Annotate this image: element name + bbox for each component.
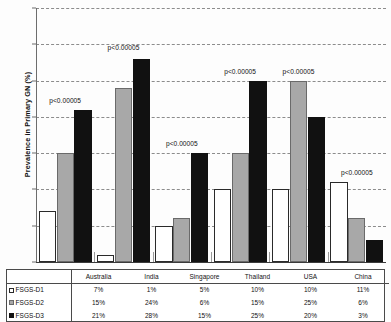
table-cell: 6%: [178, 296, 231, 309]
bar-fsgs-d2-india: [115, 88, 132, 262]
legend-label: FSGS-D3: [16, 312, 45, 319]
pvalue-annotation-australia: p<0.00005: [49, 97, 81, 104]
bar-fsgs-d3-singapore: [191, 153, 208, 262]
gridline: [36, 81, 386, 82]
legend-swatch-icon: [9, 300, 14, 305]
table-header-usa: USA: [284, 270, 337, 283]
table-cell: 20%: [284, 309, 337, 322]
plot-area-wrapper: Prevalence in Primary GN (%) 00.050.10.1…: [0, 0, 391, 272]
category-separator: [269, 252, 270, 262]
pvalue-annotation-china: p<0.00005: [341, 169, 373, 176]
plot-area: p<0.00005p<0.00005p<0.00005p<0.00005p<0.…: [36, 8, 386, 262]
bar-fsgs-d2-thailand: [232, 153, 249, 262]
table-cell: 25%: [231, 309, 284, 322]
table-cell: 5%: [178, 283, 231, 296]
table-row: FSGS-D17%1%5%10%10%11%: [7, 283, 389, 296]
legend-item-fsgs-d1: FSGS-D1: [7, 283, 72, 296]
legend-swatch-icon: [9, 313, 14, 318]
table-cell: 25%: [284, 296, 337, 309]
bar-fsgs-d1-thailand: [214, 189, 231, 262]
table-header-india: India: [125, 270, 178, 283]
table-cell: 15%: [72, 296, 126, 309]
table-cell: 28%: [125, 309, 178, 322]
bar-fsgs-d1-china: [330, 182, 347, 262]
pvalue-annotation-singapore: p<0.00005: [166, 140, 198, 147]
bar-fsgs-d3-china: [366, 240, 383, 262]
table-cell: 10%: [231, 283, 284, 296]
bar-fsgs-d2-usa: [290, 81, 307, 262]
pvalue-annotation-thailand: p<0.00005: [224, 68, 256, 75]
table-cell: 11%: [337, 283, 389, 296]
table-cell: 10%: [284, 283, 337, 296]
chart-figure: Prevalence in Primary GN (%) 00.050.10.1…: [0, 0, 391, 322]
bar-fsgs-d3-india: [133, 59, 150, 262]
category-separator: [211, 252, 212, 262]
bar-fsgs-d1-australia: [39, 211, 56, 262]
y-axis-line: [36, 8, 37, 262]
table-corner-cell: [7, 270, 72, 283]
bar-fsgs-d2-australia: [57, 153, 74, 262]
gridline: [36, 44, 386, 45]
table-cell: 15%: [178, 309, 231, 322]
table-header-australia: Australia: [72, 270, 126, 283]
bar-fsgs-d1-india: [97, 255, 114, 262]
legend-label: FSGS-D1: [16, 286, 45, 293]
y-axis-ticks: 00.050.10.150.20.250.30.35: [0, 0, 36, 272]
table-cell: 1%: [125, 283, 178, 296]
bar-fsgs-d2-china: [348, 218, 365, 262]
table-row: FSGS-D215%24%6%15%25%6%: [7, 296, 389, 309]
table-header-singapore: Singapore: [178, 270, 231, 283]
legend-swatch-icon: [9, 288, 14, 293]
bar-fsgs-d2-singapore: [173, 218, 190, 262]
bar-fsgs-d3-australia: [74, 110, 91, 262]
table-header-china: China: [337, 270, 389, 283]
bar-fsgs-d3-thailand: [249, 81, 266, 262]
bar-fsgs-d1-singapore: [155, 226, 172, 262]
bar-fsgs-d1-usa: [272, 189, 289, 262]
x-axis-line: [36, 262, 386, 263]
table-cell: 7%: [72, 283, 126, 296]
table-cell: 6%: [337, 296, 389, 309]
category-separator: [328, 252, 329, 262]
pvalue-annotation-india: p<0.00005: [108, 44, 140, 51]
table-cell: 21%: [72, 309, 126, 322]
legend-item-fsgs-d2: FSGS-D2: [7, 296, 72, 309]
bar-fsgs-d3-usa: [308, 117, 325, 262]
gridline: [36, 8, 386, 9]
legend-item-fsgs-d3: FSGS-D3: [7, 309, 72, 322]
table-cell: 15%: [231, 296, 284, 309]
table-cell: 24%: [125, 296, 178, 309]
category-separator: [94, 252, 95, 262]
table-header-thailand: Thailand: [231, 270, 284, 283]
table-header-row: AustraliaIndiaSingaporeThailandUSAChina: [7, 270, 389, 283]
pvalue-annotation-usa: p<0.00005: [283, 68, 315, 75]
category-separator: [153, 252, 154, 262]
legend-label: FSGS-D2: [16, 299, 45, 306]
table-row: FSGS-D321%28%15%25%20%3%: [7, 309, 389, 322]
data-table: AustraliaIndiaSingaporeThailandUSAChinaF…: [6, 269, 385, 322]
table-cell: 3%: [337, 309, 389, 322]
